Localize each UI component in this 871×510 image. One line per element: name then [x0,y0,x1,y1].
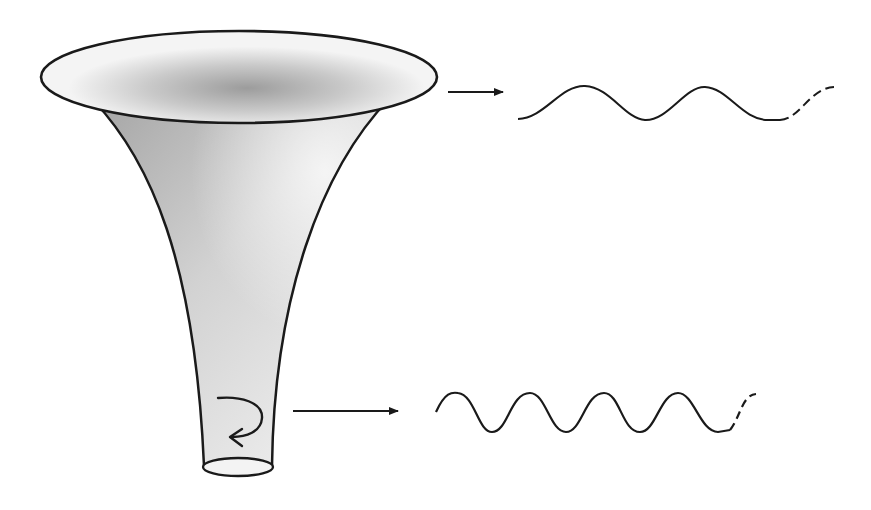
funnel [41,31,437,476]
top-wave [518,86,834,120]
funnel-throat [203,458,273,476]
bottom-wave [436,393,756,432]
funnel-mouth [41,31,437,123]
funnel-wave-diagram [0,0,871,510]
